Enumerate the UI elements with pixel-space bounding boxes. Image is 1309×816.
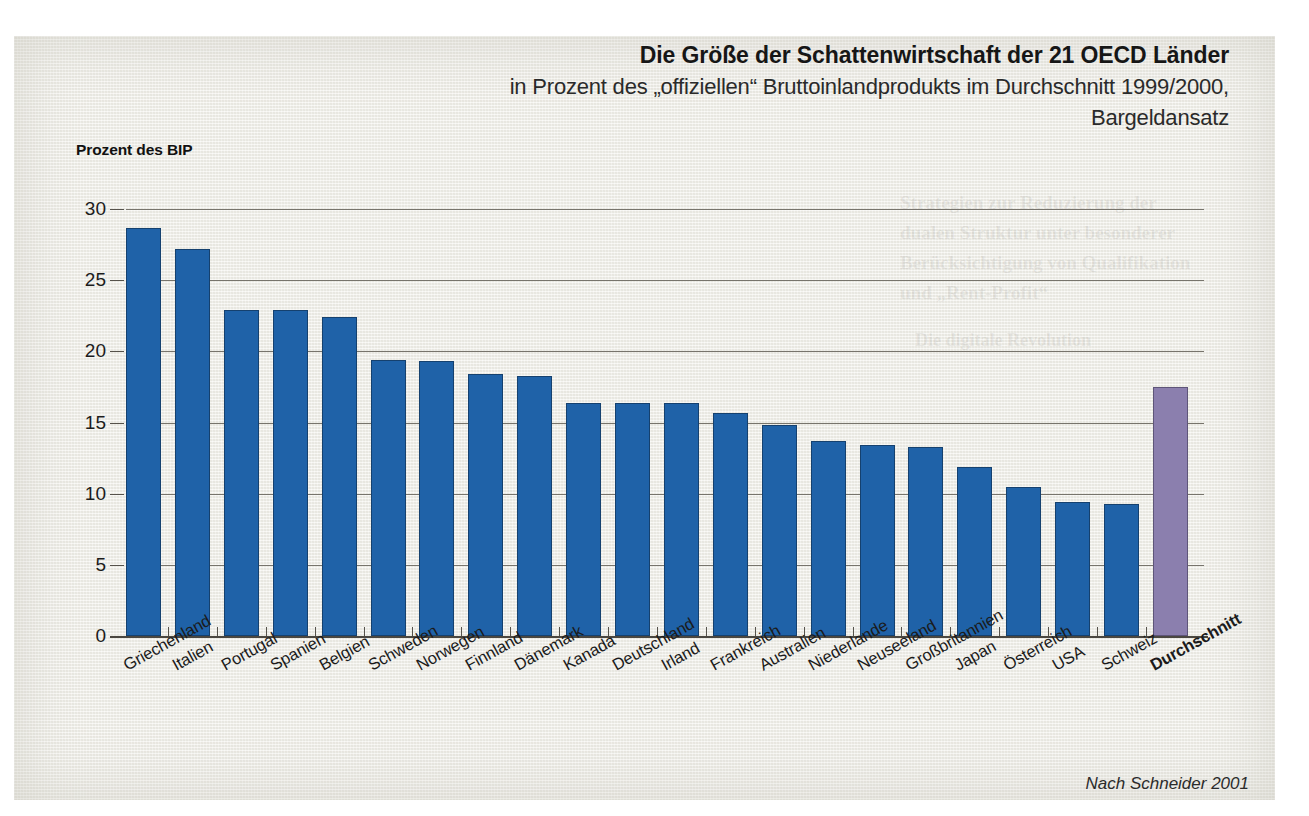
gridline-30: [126, 209, 1204, 210]
y-tick-label-20: 20: [46, 340, 106, 362]
bar-schweiz: [1104, 504, 1139, 636]
figure-page: Strategien zur Reduzierung der dualen St…: [0, 0, 1309, 816]
bar--sterreich: [1006, 487, 1041, 636]
x-tick-mark-20: [1097, 627, 1098, 636]
bar-schweden: [371, 360, 406, 636]
bar-australien: [762, 425, 797, 636]
x-tick-mark-18: [999, 627, 1000, 636]
bar-norwegen: [419, 361, 454, 636]
bar-durchschnitt: [1153, 387, 1188, 636]
bar-italien: [175, 249, 210, 636]
bar-finnland: [468, 374, 503, 636]
bar-neuseeland: [860, 445, 895, 636]
source-note: Nach Schneider 2001: [1085, 774, 1249, 794]
bar-portugal: [224, 310, 259, 636]
bar-belgien: [322, 317, 357, 636]
x-tick-mark-2: [217, 627, 218, 636]
bar-usa: [1055, 502, 1090, 636]
bar-deutschland: [615, 403, 650, 636]
bar-griechenland: [126, 228, 161, 636]
bar-d-nemark: [517, 376, 552, 636]
y-tick-mark-25: [110, 280, 124, 281]
y-tick-label-30: 30: [46, 198, 106, 220]
bar-niederlande: [811, 441, 846, 636]
bar-frankreich: [713, 413, 748, 636]
y-tick-mark-30: [110, 209, 124, 210]
bar-gro-britannien: [908, 447, 943, 636]
y-tick-label-5: 5: [46, 554, 106, 576]
y-tick-mark-20: [110, 351, 124, 352]
bar-irland: [664, 403, 699, 636]
gridline-25: [126, 280, 1204, 281]
bar-spanien: [273, 310, 308, 636]
x-tick-mark-12: [706, 627, 707, 636]
y-tick-mark-5: [110, 565, 124, 566]
bar-kanada: [566, 403, 601, 636]
y-tick-label-0: 0: [46, 625, 106, 647]
y-tick-mark-10: [110, 494, 124, 495]
y-tick-label-10: 10: [46, 483, 106, 505]
y-tick-mark-15: [110, 423, 124, 424]
bar-chart-plot: 051015202530 GriechenlandItalienPortugal…: [0, 0, 1261, 764]
y-tick-label-25: 25: [46, 269, 106, 291]
y-tick-label-15: 15: [46, 412, 106, 434]
